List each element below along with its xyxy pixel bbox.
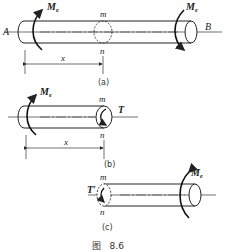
moment-arrow-left-icon — [27, 95, 36, 135]
label-T-prime: T′ — [87, 184, 96, 195]
caption-b: (b) — [104, 160, 115, 169]
label-x: x — [60, 53, 65, 63]
shaft-right-end — [189, 184, 201, 206]
label-Me-right: Me — [185, 1, 198, 13]
moment-arrow-left-icon — [33, 10, 42, 50]
label-Me: Me — [39, 86, 52, 98]
label-m: m — [99, 94, 106, 104]
caption-c: (c) — [102, 223, 113, 232]
caption-a: (a) — [98, 78, 109, 87]
shaft-right-end — [185, 21, 197, 43]
figure-caption: 图 8.6 — [92, 241, 124, 251]
subfigure-c: Me m n T′ (c) — [87, 167, 216, 232]
section-mn-face — [96, 106, 112, 128]
label-m: m — [100, 172, 107, 182]
torsion-shaft-figure: A B Me Me m n x (a) Me m n T x (b) — [0, 0, 228, 251]
section-mn-face — [97, 184, 111, 206]
label-n: n — [100, 130, 105, 140]
label-T: T — [118, 104, 125, 115]
label-n: n — [100, 207, 105, 217]
moment-arrow-right-icon — [175, 10, 184, 50]
subfigure-b: Me m n T x (b) — [8, 86, 138, 169]
label-Me-left: Me — [46, 1, 59, 13]
label-x: x — [63, 137, 68, 147]
label-m: m — [100, 9, 107, 19]
label-B: B — [205, 21, 211, 32]
label-A: A — [2, 26, 10, 37]
subfigure-a: A B Me Me m n x (a) — [2, 1, 222, 87]
label-Me: Me — [190, 167, 203, 179]
label-n: n — [100, 46, 105, 56]
